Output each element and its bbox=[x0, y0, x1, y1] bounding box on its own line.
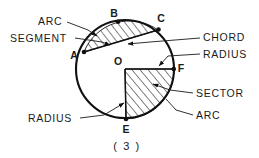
point-label-A: A bbox=[70, 49, 78, 61]
point-label-F: F bbox=[178, 62, 185, 74]
figure-caption: ( 3 ) bbox=[113, 140, 141, 152]
label-chord: CHORD bbox=[203, 31, 245, 43]
label-arc-bottom: ARC bbox=[196, 109, 220, 121]
label-radius-left: RADIUS bbox=[28, 112, 72, 124]
figure-page: A B C O E F ARC SEGMENT CHORD RADIUS SEC… bbox=[0, 0, 259, 158]
point-label-C: C bbox=[157, 12, 165, 24]
point-label-B: B bbox=[110, 7, 118, 19]
label-arc-top: ARC bbox=[38, 15, 62, 27]
radius-OE bbox=[125, 69, 126, 119]
leader-radius-left bbox=[80, 103, 124, 118]
point-B-dot bbox=[116, 20, 121, 25]
label-sector: SECTOR bbox=[196, 87, 244, 99]
point-E-dot bbox=[124, 117, 129, 122]
point-C-dot bbox=[156, 27, 161, 32]
point-label-O: O bbox=[114, 55, 122, 67]
circle-geometry-diagram: A B C O E F ARC SEGMENT CHORD RADIUS SEC… bbox=[0, 0, 259, 158]
point-F-dot bbox=[172, 67, 177, 72]
point-label-E: E bbox=[122, 123, 129, 135]
leader-arc-bottom bbox=[166, 99, 193, 115]
leader-arc-top bbox=[67, 22, 97, 36]
point-A-dot bbox=[82, 50, 87, 55]
label-radius-right: RADIUS bbox=[203, 48, 247, 60]
label-segment: SEGMENT bbox=[10, 32, 67, 44]
